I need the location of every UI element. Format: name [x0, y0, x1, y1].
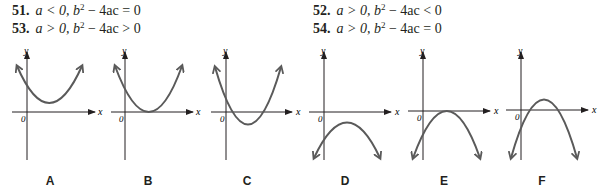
x-axis-label: x: [493, 105, 499, 116]
y-axis-label: y: [419, 45, 425, 56]
origin-label: 0: [318, 114, 323, 124]
origin-label: 0: [21, 114, 26, 124]
x-axis-label: x: [591, 104, 597, 115]
y-axis-label: y: [121, 45, 127, 56]
x-axis-label: x: [295, 106, 301, 117]
graph-b: y x 0: [111, 45, 201, 160]
y-axis-label: y: [517, 45, 523, 56]
graph-label-f: F: [532, 174, 552, 188]
y-axis-label: y: [320, 45, 326, 56]
graph-label-d: D: [335, 174, 355, 188]
x-axis-label: x: [97, 106, 103, 117]
graph-a: y x 0: [12, 45, 103, 160]
y-axis-label: y: [23, 45, 29, 56]
origin-label: 0: [119, 114, 124, 124]
parabola-graphs: y x 0 y x 0 y x 0 y x 0 y x 0: [0, 0, 610, 196]
graph-label-b: B: [138, 174, 158, 188]
x-axis-label: x: [195, 106, 201, 117]
parabola-curve: [215, 67, 281, 125]
origin-label: 0: [417, 113, 422, 123]
origin-label: 0: [515, 112, 520, 122]
graph-label-e: E: [434, 174, 454, 188]
graph-label-a: A: [40, 174, 60, 188]
y-axis-label: y: [222, 45, 228, 56]
x-axis-label: x: [394, 106, 400, 117]
graph-label-c: C: [237, 174, 257, 188]
origin-label: 0: [220, 114, 225, 124]
graph-d: y x 0: [309, 45, 400, 160]
graph-c: y x 0: [211, 45, 301, 160]
graph-f: y x 0: [506, 45, 597, 160]
graph-e: y x 0: [408, 45, 499, 160]
